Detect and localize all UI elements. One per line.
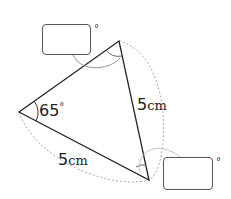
bottom-side-label: 5cm (58, 152, 88, 168)
right-side-value: 5 (137, 95, 147, 114)
right-side-label: 5cm (137, 97, 167, 113)
left-angle-arc (34, 101, 38, 121)
given-angle-degree: ° (59, 101, 64, 112)
top-angle-degree: ° (94, 24, 99, 34)
bottom-angle-answer-box[interactable] (163, 157, 213, 190)
given-angle-label: 65° (39, 103, 64, 119)
bottom-angle-degree: ° (216, 157, 221, 167)
triangle-diagram: 65° 5cm 5cm ° ° (0, 0, 231, 199)
given-angle-value: 65 (39, 101, 59, 120)
bottom-angle-arc (136, 165, 146, 167)
top-angle-arc (106, 50, 122, 56)
right-side-unit: cm (147, 98, 167, 113)
bottom-side-unit: cm (68, 153, 88, 168)
top-angle-answer-box[interactable] (42, 24, 91, 55)
bottom-side-value: 5 (58, 150, 68, 169)
